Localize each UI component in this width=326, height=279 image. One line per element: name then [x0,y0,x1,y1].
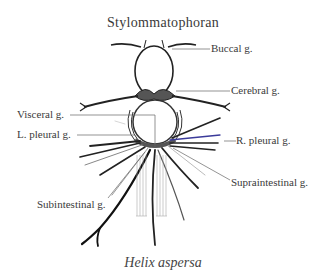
label-buccal-ganglion: Buccal g. [211,42,253,54]
label-l-pleural-ganglion: L. pleural g. [17,128,71,140]
label-supraintestinal-ganglion: Supraintestinal g. [231,176,308,188]
figure-caption: Helix aspersa [0,255,326,271]
nerves [80,118,220,246]
label-r-pleural-ganglion: R. pleural g. [236,134,290,146]
buccal-ganglion [111,40,196,96]
supraintestinal-leader-line [173,148,230,180]
label-cerebral-ganglion: Cerebral g. [231,84,280,96]
intestine [136,155,167,216]
label-visceral-ganglion: Visceral g. [17,108,64,120]
label-subintestinal-ganglion: Subintestinal g. [37,198,105,210]
